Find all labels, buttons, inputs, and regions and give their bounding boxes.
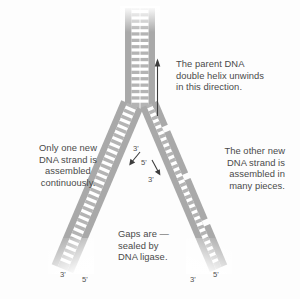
label-fork-3-prime-upper: 3' (133, 145, 139, 153)
annotation-leading-strand: Only one new DNA strand is assembled con… (12, 142, 124, 188)
label-bottom-right-5-prime: 5' (213, 271, 219, 279)
annotation-lagging-strand: The other new DNA strand is assembled in… (172, 145, 285, 191)
label-fork-3-prime-lower: 3' (148, 176, 154, 184)
annotation-parent-helix: The parent DNA double helix unwinds in t… (176, 58, 294, 93)
parent-duplex (120, 6, 160, 108)
annotation-dna-ligase: Gaps are — sealed by DNA ligase. (118, 228, 204, 263)
figure-canvas: The parent DNA double helix unwinds in t… (0, 0, 300, 299)
label-bottom-left-5-prime: 5' (82, 276, 88, 284)
label-fork-5-prime: 5' (141, 159, 147, 167)
label-bottom-left-3-prime: 3' (60, 271, 66, 279)
label-bottom-right-3-prime: 3' (190, 276, 196, 284)
